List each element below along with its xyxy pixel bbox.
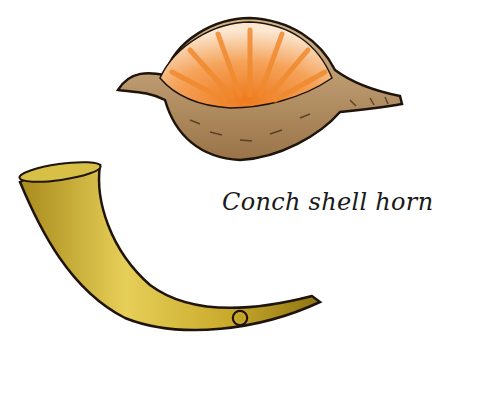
illustration-canvas: Conch shell horn	[0, 0, 488, 397]
conch-shell-drawing	[118, 18, 402, 160]
caption: Conch shell horn	[222, 188, 433, 216]
horn-drawing	[18, 158, 320, 330]
